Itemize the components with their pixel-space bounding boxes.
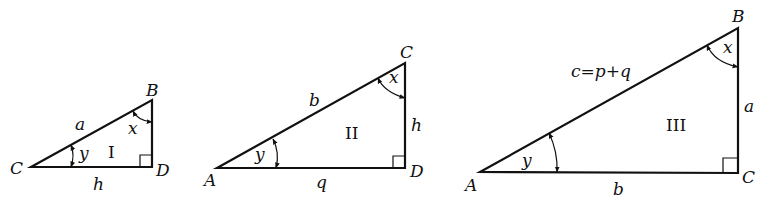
triangle-i: C B D a h x y I <box>10 80 170 194</box>
vertex-label-c-i: C <box>10 158 23 178</box>
right-angle-marker-iii <box>723 158 738 173</box>
triangle-label-iii: III <box>666 115 686 135</box>
angle-label-x-i: x <box>128 118 138 138</box>
vertex-label-b-i: B <box>145 80 159 100</box>
angle-arc-y-i <box>71 145 73 167</box>
angle-arc-y-iii <box>549 133 557 172</box>
vertex-label-c-iii: C <box>742 167 755 187</box>
triangle-ii: C A D b q h x y II <box>202 42 424 192</box>
right-angle-marker-ii <box>393 156 405 168</box>
side-label-b-iii: b <box>613 179 624 199</box>
side-label-h-i: h <box>93 174 104 194</box>
triangle-label-i: I <box>108 142 115 162</box>
side-label-h-ii: h <box>411 115 422 135</box>
triangle-iii: B A C c=p+q b a x y III <box>463 6 755 199</box>
side-label-c-iii: c=p+q <box>571 61 631 81</box>
vertex-label-d-ii: D <box>409 161 424 181</box>
angle-label-y-ii: y <box>254 144 265 164</box>
angle-label-y-iii: y <box>521 150 532 170</box>
right-angle-marker-i <box>140 155 152 167</box>
side-label-b-ii: b <box>309 90 320 110</box>
vertex-label-c-ii: C <box>400 42 413 62</box>
side-label-a-i: a <box>75 114 85 134</box>
vertex-label-d-i: D <box>155 160 170 180</box>
triangle-label-ii: II <box>345 123 358 143</box>
angle-label-x-iii: x <box>723 37 733 57</box>
triangle-iii-outline <box>480 28 738 173</box>
vertex-label-a-ii: A <box>202 170 216 190</box>
side-label-q-ii: q <box>316 172 327 192</box>
angle-arc-y-ii <box>273 139 277 168</box>
angle-label-y-i: y <box>78 143 89 163</box>
side-label-a-iii: a <box>744 96 754 116</box>
angle-label-x-ii: x <box>389 67 399 87</box>
triangle-ii-outline <box>217 63 405 168</box>
vertex-label-a-iii: A <box>463 175 477 195</box>
similar-triangles-diagram: C B D a h x y I C A D b q h x y II B A C… <box>0 0 758 224</box>
vertex-label-b-iii: B <box>731 6 745 26</box>
